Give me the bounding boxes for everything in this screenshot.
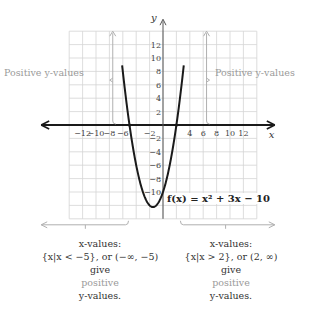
svg-text:6: 6 (156, 81, 161, 90)
svg-text:−4: −4 (149, 148, 161, 157)
svg-text:6: 6 (201, 129, 206, 138)
left-caption-line3: give (25, 263, 175, 276)
right-positive-label: Positive y-values (215, 67, 295, 78)
svg-text:12: 12 (238, 129, 248, 138)
svg-text:−6: −6 (149, 161, 161, 170)
svg-text:−8: −8 (104, 129, 116, 138)
svg-text:2: 2 (156, 108, 161, 117)
svg-text:8: 8 (214, 129, 219, 138)
svg-text:10: 10 (225, 129, 235, 138)
svg-text:12: 12 (151, 41, 161, 50)
svg-text:−6: −6 (117, 129, 129, 138)
svg-text:−10: −10 (144, 188, 161, 197)
svg-text:4: 4 (187, 129, 192, 138)
right-caption-line5: y-values. (156, 289, 306, 302)
right-caption-line3: give (156, 263, 306, 276)
left-caption: x-values: {x|x < −5}, or (−∞, −5) give p… (25, 237, 175, 302)
svg-text:y: y (150, 12, 157, 23)
left-caption-line4: positive (25, 276, 175, 289)
svg-text:−2: −2 (149, 134, 161, 143)
right-caption-line4: positive (156, 276, 306, 289)
svg-text:8: 8 (156, 67, 161, 76)
tick-labels: −12−10−8−6−2468101212108642−2−4−6−8−10 (74, 41, 248, 197)
function-label: f(x) = x² + 3x − 10 (166, 193, 271, 204)
svg-text:−8: −8 (149, 175, 161, 184)
svg-text:x: x (269, 129, 275, 140)
right-caption: x-values: {x|x > 2}, or (2, ∞) give posi… (156, 237, 306, 302)
svg-text:−10: −10 (88, 129, 105, 138)
right-caption-line2: {x|x > 2}, or (2, ∞) (156, 250, 306, 263)
right-caption-line1: x-values: (156, 237, 306, 250)
svg-text:10: 10 (151, 54, 161, 63)
left-caption-line5: y-values. (25, 289, 175, 302)
left-caption-line1: x-values: (25, 237, 175, 250)
left-positive-label: Positive y-values (4, 67, 84, 78)
svg-text:4: 4 (156, 94, 161, 103)
left-caption-line2: {x|x < −5}, or (−∞, −5) (25, 250, 175, 263)
